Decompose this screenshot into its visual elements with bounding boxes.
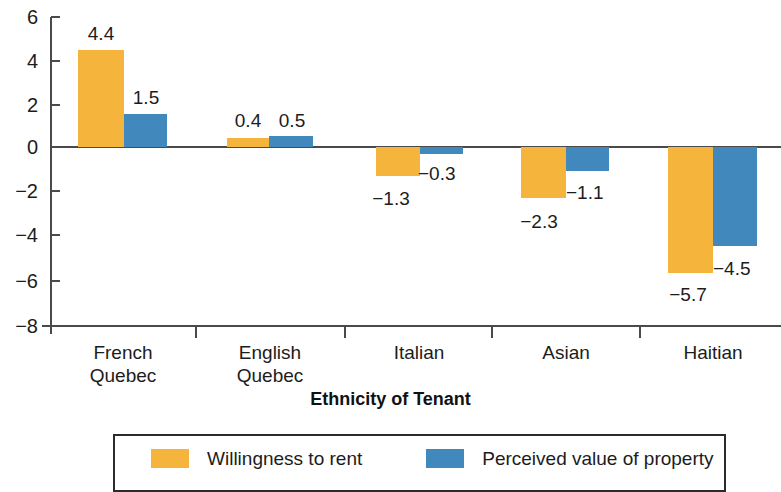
value-label-asian-perceived: −1.1 [566, 183, 626, 202]
bar-italian-perceived [420, 147, 463, 154]
x-category-label-italian: Italian [358, 341, 480, 364]
y-tick-label-minus-2: −2 [0, 181, 38, 201]
bar-haitian-willingness [668, 147, 713, 273]
bar-english-quebec-perceived [269, 136, 313, 147]
bar-asian-perceived [566, 147, 609, 171]
y-tick-label-minus-4: −4 [0, 225, 38, 245]
x-axis-ticks [196, 326, 640, 338]
legend: Willingness to rent Perceived value of p… [113, 434, 726, 492]
y-tick-label-minus-8: −8 [0, 316, 38, 336]
x-category-label-asian: Asian [505, 341, 627, 364]
x-category-label-haitian: Haitian [652, 341, 774, 364]
value-label-english-quebec-perceived: 0.5 [262, 111, 322, 130]
legend-swatch-perceived-icon [426, 449, 464, 468]
value-label-french-quebec-willingness: 4.4 [71, 24, 131, 43]
legend-swatch-willingness-icon [151, 449, 189, 468]
value-label-italian-perceived: −0.3 [418, 164, 478, 183]
y-tick-label-minus-6: −6 [0, 271, 38, 291]
y-tick-label-0: 0 [0, 137, 38, 157]
value-label-french-quebec-perceived: 1.5 [116, 88, 176, 107]
value-label-italian-willingness: −1.3 [356, 189, 426, 208]
x-category-label-english-quebec: English Quebec [209, 341, 331, 387]
x-category-label-french-quebec: French Quebec [62, 341, 184, 387]
bar-asian-willingness [521, 147, 566, 198]
legend-item-willingness-to-rent: Willingness to rent [151, 449, 362, 468]
value-label-haitian-willingness: −5.7 [653, 285, 723, 304]
value-label-asian-willingness: −2.3 [504, 212, 574, 231]
bar-haitian-perceived [713, 147, 757, 246]
bar-english-quebec-willingness [227, 138, 269, 147]
y-tick-label-4: 4 [0, 51, 38, 71]
y-axis-ticks [51, 17, 60, 326]
legend-label-perceived: Perceived value of property [482, 449, 713, 468]
legend-item-perceived-value: Perceived value of property [426, 449, 713, 468]
value-label-haitian-perceived: −4.5 [713, 259, 773, 278]
x-axis-title: Ethnicity of Tenant [0, 389, 781, 410]
y-tick-label-2: 2 [0, 95, 38, 115]
bar-italian-willingness [376, 147, 420, 176]
legend-label-willingness: Willingness to rent [207, 449, 362, 468]
y-tick-label-6: 6 [0, 7, 38, 27]
bar-french-quebec-perceived [124, 114, 167, 147]
